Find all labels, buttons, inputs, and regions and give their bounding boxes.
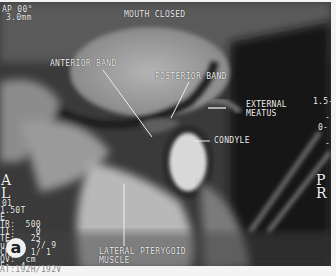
label-lateral-pterygoid-line1: LATERAL PTERYGOID: [99, 248, 186, 256]
label-posterior-band: POSTERIOR BAND: [155, 73, 227, 81]
panel-letter-badge: a: [6, 238, 26, 258]
param-line-matrix: AT:192H/192V: [0, 266, 61, 274]
orientation-right-r: R: [316, 187, 327, 200]
label-leader-lines: [0, 2, 331, 266]
scale-mark-1-5: 1.5-: [313, 98, 331, 106]
scale-tick-2: -: [325, 140, 330, 148]
mri-title: MOUTH CLOSED: [124, 11, 185, 19]
label-condyle: CONDYLE: [214, 137, 250, 145]
scale-mark-0: 0-: [318, 124, 328, 132]
label-lateral-pterygoid-line2: MUSCLE: [99, 257, 130, 265]
label-external-meatus-line1: EXTERNAL: [246, 101, 287, 109]
slice-thickness-text: 3.0mm: [6, 14, 32, 22]
label-external-meatus-line2: MEATUS: [246, 110, 277, 118]
mri-image: AP 00° 3.0mm MOUTH CLOSED ANTERIOR BAND …: [0, 2, 331, 266]
scale-tick-1: -: [325, 114, 330, 122]
label-anterior-band: ANTERIOR BAND: [50, 60, 117, 68]
